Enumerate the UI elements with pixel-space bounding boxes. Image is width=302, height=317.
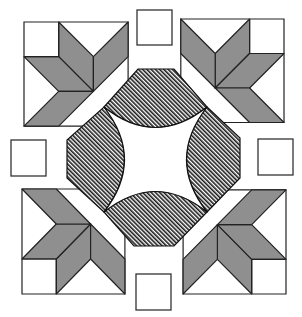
small-square-top [137,10,172,45]
quilt-diagram [0,0,302,317]
small-square-right [258,139,293,175]
small-square-left [11,140,46,176]
small-square-bottom [136,274,171,310]
